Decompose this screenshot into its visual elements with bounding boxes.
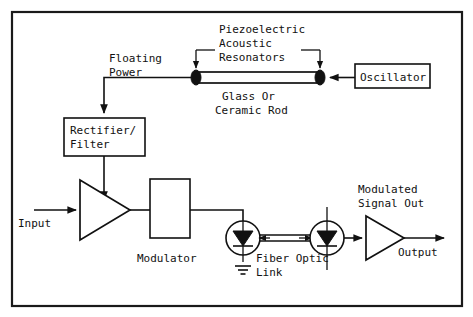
rod-body — [196, 72, 320, 83]
block-diagram-canvas: Piezoelectric Acoustic Resonators Glass … — [0, 0, 473, 317]
fiber-optic-label-line2: Link — [256, 266, 283, 279]
figure-root: Piezoelectric Acoustic Resonators Glass … — [0, 0, 473, 317]
piezoelectric-label-line3: Resonators — [219, 51, 285, 64]
rod-label-line1: Glass Or — [222, 90, 275, 103]
floating-power-label-line1: Floating — [109, 52, 162, 65]
amplifier-input-triangle[interactable] — [80, 180, 130, 240]
modulated-signal-label-line1: Modulated — [358, 183, 418, 196]
rectifier-filter-label-line2: Filter — [70, 138, 110, 151]
rod-label-line2: Ceramic Rod — [215, 104, 288, 117]
ground-symbol — [235, 266, 251, 274]
modulator-block[interactable] — [150, 179, 190, 238]
piezo-resonator-right — [315, 70, 325, 85]
amplifier-input[interactable] — [80, 180, 130, 240]
modulator-to-led-wire — [190, 210, 243, 222]
led-transmitter[interactable] — [226, 221, 260, 262]
fiber-optic-label-line1: Fiber Optic — [256, 252, 329, 265]
piezoelectric-label-line1: Piezoelectric — [219, 23, 305, 36]
rectifier-filter-label-line1: Rectifier/ — [70, 124, 136, 137]
input-label: Input — [18, 217, 51, 230]
output-label: Output — [398, 246, 438, 259]
oscillator-label: Oscillator — [360, 71, 427, 84]
modulator-box[interactable] — [150, 179, 190, 238]
piezo-resonator-left — [191, 70, 201, 85]
floating-power-wire — [104, 78, 191, 114]
resonator-callout-left — [196, 50, 215, 68]
resonator-callout-right — [301, 50, 320, 68]
fiber-optic-link — [259, 235, 312, 241]
acoustic-rod — [191, 70, 325, 85]
piezoelectric-label-line2: Acoustic — [219, 37, 272, 50]
modulated-signal-label-line2: Signal Out — [358, 197, 424, 210]
modulator-label: Modulator — [137, 252, 197, 265]
